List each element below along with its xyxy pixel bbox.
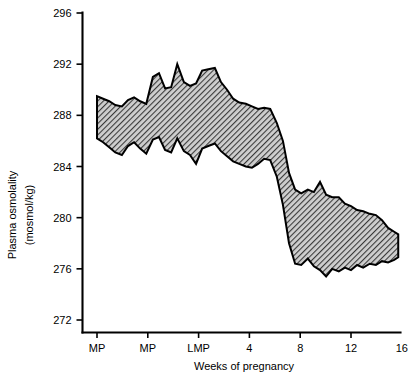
plasma-osmolality-chart: 272276280284288292296 MPMPLMP481216 Week… (0, 0, 409, 382)
x-tick-label: MP (140, 342, 157, 354)
x-axis-tick-labels: MPMPLMP481216 (89, 342, 408, 354)
y-tick-label: 276 (53, 263, 71, 275)
chart-canvas: 272276280284288292296 MPMPLMP481216 Week… (0, 0, 409, 382)
y-axis-title-line1: Plasma osmolality (6, 170, 18, 259)
y-axis-tick-labels: 272276280284288292296 (53, 7, 71, 326)
y-tick-label: 272 (53, 314, 71, 326)
x-axis-title: Weeks of pregnancy (194, 360, 295, 372)
x-tick-label: 8 (297, 342, 303, 354)
x-tick-label: 4 (246, 342, 252, 354)
x-tick-label: MP (89, 342, 106, 354)
y-tick-label: 280 (53, 212, 71, 224)
x-tick-label: 16 (396, 342, 408, 354)
y-tick-label: 284 (53, 161, 71, 173)
y-tick-label: 292 (53, 58, 71, 70)
x-tick-label: 12 (345, 342, 357, 354)
y-tick-label: 288 (53, 109, 71, 121)
osmolality-range-band (97, 64, 398, 276)
y-axis-title-line2: (mosmol/kg) (23, 185, 35, 246)
x-tick-label: LMP (187, 342, 210, 354)
y-tick-label: 296 (53, 7, 71, 19)
